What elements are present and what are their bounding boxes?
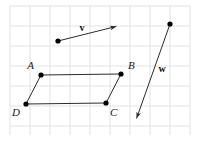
vertex-label-a: A <box>26 59 34 71</box>
vector-arrows <box>58 24 170 118</box>
vector-v-label: v <box>80 22 85 33</box>
diagram-canvas: ABCDvw <box>0 0 198 148</box>
parallelogram-edges <box>26 74 121 104</box>
vector-diagram-figure: ABCDvw <box>0 0 198 148</box>
vertex-dot-a <box>38 72 43 77</box>
vertex-dot-b <box>118 71 123 76</box>
vector-v-shaft <box>58 26 116 41</box>
vector-w-label: w <box>158 63 166 74</box>
vertex-dot-d <box>23 101 28 106</box>
edge-BC <box>106 74 121 103</box>
edge-AB <box>41 74 121 75</box>
vertex-label-d: D <box>11 106 20 118</box>
edge-CD <box>26 103 106 104</box>
vector-w-tail-dot <box>167 21 172 26</box>
vertex-label-b: B <box>128 59 135 71</box>
vertex-dot-c <box>103 100 108 105</box>
vertex-label-c: C <box>110 106 118 118</box>
vector-v-tail-dot <box>55 38 60 43</box>
edge-DA <box>26 75 41 104</box>
